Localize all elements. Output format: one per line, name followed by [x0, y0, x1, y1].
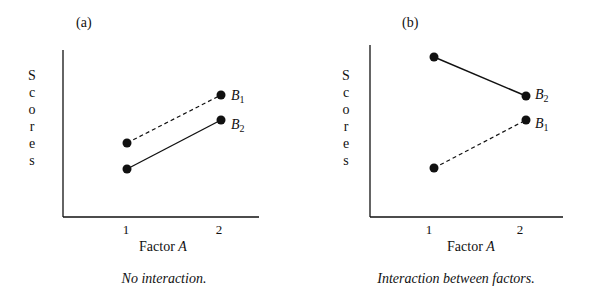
panel-a-point-b1-1 [123, 139, 132, 148]
panel-a-line-b1 [127, 95, 221, 143]
panel-b-y-axis-label: S c o r e s [342, 68, 350, 168]
svg-text:r: r [344, 119, 349, 134]
svg-text:e: e [343, 136, 349, 151]
svg-text:s: s [343, 153, 348, 168]
interaction-figure: (a) S c o r e s 1 2 Factor A B1 B2 No in… [0, 0, 593, 299]
panel-b-line-b1 [434, 120, 526, 168]
panel-a-tick-1: 1 [123, 222, 130, 237]
panel-b-label: (b) [402, 15, 419, 31]
panel-b-tick-2: 2 [517, 222, 524, 237]
svg-text:c: c [343, 85, 349, 100]
panel-b-point-b1-2 [522, 116, 531, 125]
panel-b-point-b2-1 [430, 53, 439, 62]
svg-text:o: o [343, 102, 350, 117]
panel-b-caption: Interaction between factors. [376, 271, 534, 286]
panel-b-point-b2-2 [522, 92, 531, 101]
svg-text:S: S [342, 68, 350, 83]
panel-a-tick-2: 2 [216, 222, 223, 237]
panel-a-point-b1-2 [217, 91, 226, 100]
panel-a-y-axis-label: S c o r e s [28, 68, 36, 168]
panel-a-legend-b2: B2 [231, 117, 245, 134]
panel-b-tick-1: 1 [426, 222, 433, 237]
panel-a-legend-b1: B1 [231, 88, 245, 105]
panel-b: (b) S c o r e s 1 2 Factor A B2 B1 Inter… [342, 15, 563, 286]
panel-a-label: (a) [76, 15, 92, 31]
panel-a-caption: No interaction. [121, 271, 207, 286]
svg-text:r: r [30, 119, 35, 134]
panel-b-line-b2 [434, 57, 526, 96]
svg-text:e: e [29, 136, 35, 151]
panel-b-legend-b1: B1 [535, 116, 549, 133]
panel-b-point-b1-1 [430, 164, 439, 173]
panel-a-x-axis-label: Factor A [139, 239, 187, 254]
svg-text:S: S [28, 68, 36, 83]
panel-b-legend-b2: B2 [535, 87, 549, 104]
panel-a-line-b2 [127, 120, 221, 169]
panel-a-point-b2-1 [123, 165, 132, 174]
svg-text:c: c [29, 85, 35, 100]
panel-a-point-b2-2 [217, 116, 226, 125]
panel-a: (a) S c o r e s 1 2 Factor A B1 B2 No in… [28, 15, 259, 286]
panel-b-x-axis-label: Factor A [447, 239, 495, 254]
svg-text:o: o [29, 102, 36, 117]
svg-text:s: s [29, 153, 34, 168]
